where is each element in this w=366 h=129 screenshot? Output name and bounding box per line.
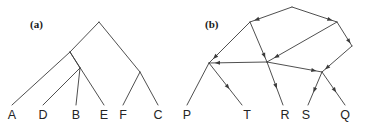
leaf-label-q: Q	[340, 108, 350, 122]
edge-ml-to-T	[209, 63, 242, 105]
edge-n1-to-A	[12, 52, 70, 105]
panel-b-leaf-labels: PTRSQ	[183, 108, 350, 122]
leaf-label-f: F	[119, 108, 127, 122]
figure-canvas: ADBEFC (a) PTRSQ (b)	[0, 0, 366, 129]
edge-mc-to-R	[267, 62, 283, 105]
leaf-label-p: P	[183, 108, 191, 122]
edge-n2-to-D	[43, 68, 80, 105]
panel-a: ADBEFC (a)	[8, 18, 163, 122]
leaf-label-c: C	[153, 108, 162, 122]
edge-root-to-n3	[99, 22, 140, 72]
leaf-label-e: E	[100, 108, 108, 122]
panel-a-edges	[12, 22, 158, 105]
edge-n2-to-B	[76, 68, 80, 105]
leaf-label-t: T	[243, 108, 251, 122]
edge-ml-to-P	[187, 63, 209, 105]
panel-a-label: (a)	[30, 18, 43, 31]
leaf-label-s: S	[302, 108, 310, 122]
panel-a-leaf-labels: ADBEFC	[8, 108, 163, 122]
leaf-label-r: R	[280, 108, 289, 122]
edge-n3-to-F	[123, 72, 140, 105]
edge-root-to-n1	[70, 22, 99, 52]
leaf-label-b: B	[72, 108, 80, 122]
edge-n1-to-E	[70, 52, 104, 105]
edge-n3-to-C	[140, 72, 158, 105]
panel-b: PTRSQ (b)	[183, 7, 352, 122]
leaf-label-d: D	[38, 108, 47, 122]
panel-b-label: (b)	[205, 18, 219, 31]
leaf-label-a: A	[8, 108, 17, 122]
